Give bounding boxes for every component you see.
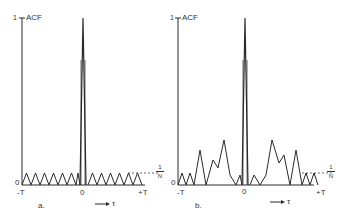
panel-a-x-right-label: +T [138,189,148,197]
panel-a-y-axis-label: ACF [26,14,42,22]
panel-b-x-center-label: 0 [242,188,246,196]
panel-a-left-sidelobes [22,173,80,185]
panel-b-caption: b. [195,202,202,210]
panel-b-level-label: 1 N [327,164,335,179]
panel-b-x-left-label: -T [177,189,185,197]
panel-b-x-axis-label: τ [287,198,290,206]
panel-a-x-left-label: -T [17,189,25,197]
panel-b-left-sidelobes [178,140,242,185]
panel-b-y-zero-label: 0 [171,179,175,187]
panel-a-y-tick-label-1: 1 [13,14,17,21]
panel-b-y-tick-label-1: 1 [170,14,174,21]
panel-a-level-denominator: N [158,173,162,179]
panel-b-level-numerator: 1 [329,164,332,170]
panel-a-level-numerator: 1 [158,164,161,170]
panel-a-x-axis-label: τ [112,200,115,208]
panel-b-y-axis-label: ACF [182,14,198,22]
panel-b-x-right-label: +T [316,189,326,197]
panel-a-level-label: 1 N [156,164,164,179]
panel-a-y-zero-label: 0 [15,179,19,187]
panel-a-caption: a. [38,202,45,210]
panel-b-right-sidelobes [250,140,318,185]
acf-diagram [0,0,348,224]
panel-a-x-center-label: 0 [80,189,84,197]
panel-b-level-denominator: N [329,173,333,179]
panel-a-plot [19,18,158,206]
panel-b-tau-arrow-head [281,200,285,204]
panel-a-tau-arrow-head [106,202,110,206]
panel-b-plot [175,18,332,204]
panel-a-right-sidelobes [88,173,142,185]
